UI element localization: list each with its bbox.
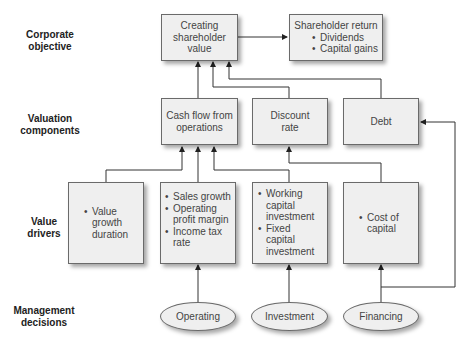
bullet-item: Operating profit margin: [165, 203, 231, 226]
bullet-item: Sales growth: [165, 191, 231, 203]
investment-decision-ellipse: Investment: [251, 302, 328, 331]
box-title: Shareholder return: [294, 20, 378, 32]
label-line: components: [5, 125, 95, 137]
shareholder-return-box: Shareholder return Dividends Capital gai…: [289, 14, 383, 61]
debt-box: Debt: [343, 98, 419, 145]
bullet-item: Income tax rate: [165, 226, 225, 249]
row-label-valuation-components: Valuation components: [5, 113, 95, 137]
box-text: value: [173, 43, 226, 55]
label-line: objective: [5, 41, 95, 53]
ellipse-text: Financing: [359, 311, 402, 322]
operating-decision-ellipse: Operating: [160, 302, 236, 331]
ellipse-text: Operating: [176, 311, 220, 322]
label-line: Management: [0, 305, 89, 317]
box-text: Discount: [271, 110, 310, 122]
label-line: Valuation: [5, 113, 95, 125]
bullet-item: Working capital investment: [258, 188, 316, 223]
bullet-item: Dividends: [312, 32, 378, 44]
creating-shareholder-value-box: Creating shareholder value: [161, 14, 238, 61]
label-line: Corporate: [5, 29, 95, 41]
ellipse-text: Investment: [265, 311, 314, 322]
row-label-management-decisions: Management decisions: [0, 305, 89, 329]
box-text: Creating: [173, 20, 226, 32]
operating-drivers-box: Sales growth Operating profit margin Inc…: [160, 182, 236, 264]
label-line: decisions: [0, 317, 89, 329]
financing-decision-ellipse: Financing: [343, 302, 419, 331]
box-text: Debt: [370, 116, 391, 128]
discount-rate-box: Discount rate: [252, 98, 328, 145]
bullet-item: Cost of capital: [359, 212, 403, 235]
box-text: Cash flow from: [166, 110, 233, 122]
row-label-corporate-objective: Corporate objective: [5, 29, 95, 53]
value-growth-duration-box: Value growth duration: [68, 182, 144, 264]
cost-of-capital-box: Cost of capital: [343, 182, 419, 264]
bullet-item: Fixed capital investment: [258, 223, 316, 258]
investment-drivers-box: Working capital investment Fixed capital…: [252, 182, 328, 264]
box-text: operations: [166, 122, 233, 134]
bullet-item: Value growth duration: [84, 206, 128, 241]
box-text: rate: [271, 122, 310, 134]
box-text: shareholder: [173, 32, 226, 44]
bullet-item: Capital gains: [312, 43, 378, 55]
cash-flow-from-operations-box: Cash flow from operations: [161, 98, 238, 145]
